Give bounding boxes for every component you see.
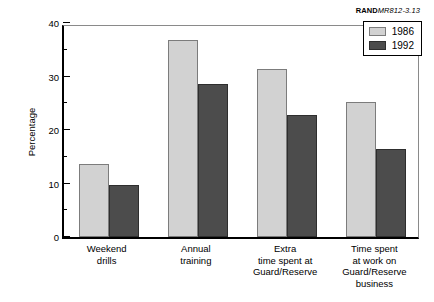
bar-1986-group1 (79, 164, 109, 237)
source-caption-italic: MR812-3.13 (378, 6, 420, 15)
legend-row-1986: 1986 (369, 26, 414, 37)
bar-1986-group3 (257, 69, 287, 237)
y-tick-minor (63, 102, 67, 103)
y-tick-major: 40 (63, 22, 70, 23)
y-tick-label: 40 (48, 18, 59, 29)
chart-figure: RANDMR812-3.13 Percentage 010203040 Week… (0, 0, 434, 302)
chart-legend: 19861992 (363, 21, 422, 56)
y-tick-label: 10 (48, 178, 59, 189)
y-tick-minor (63, 209, 67, 210)
y-tick-label: 20 (48, 125, 59, 136)
bar-1992-group4 (376, 149, 406, 237)
x-axis-label-line: business (319, 278, 429, 290)
y-tick-label: 0 (54, 232, 59, 243)
bar-1992-group2 (198, 84, 228, 237)
legend-label-1992: 1992 (392, 40, 414, 51)
bar-1992-group3 (287, 115, 317, 238)
source-caption-bold: RAND (356, 6, 378, 15)
source-caption: RANDMR812-3.13 (356, 6, 420, 15)
legend-swatch-1986 (369, 27, 386, 36)
legend-swatch-1992 (369, 41, 386, 50)
y-tick-major: 10 (63, 183, 70, 184)
legend-label-1986: 1986 (392, 26, 414, 37)
bar-1992-group1 (109, 185, 139, 237)
x-axis-group-label: Time spentat work onGuard/Reservebusines… (319, 243, 429, 289)
y-tick-label: 30 (48, 71, 59, 82)
y-tick-major: 0 (63, 236, 70, 237)
y-tick-minor (63, 156, 67, 157)
plot-area: 010203040 (62, 25, 419, 239)
y-axis-title: Percentage (26, 108, 37, 157)
y-tick-major: 30 (63, 76, 70, 77)
bar-1986-group2 (168, 40, 198, 237)
x-axis-label-line: at work on (319, 255, 429, 267)
legend-row-1992: 1992 (369, 40, 414, 51)
x-axis-label-line: Guard/Reserve (319, 266, 429, 278)
bar-1986-group4 (346, 102, 376, 237)
y-tick-major: 20 (63, 129, 70, 130)
y-tick-minor (63, 49, 67, 50)
x-axis-label-line: Time spent (319, 243, 429, 255)
